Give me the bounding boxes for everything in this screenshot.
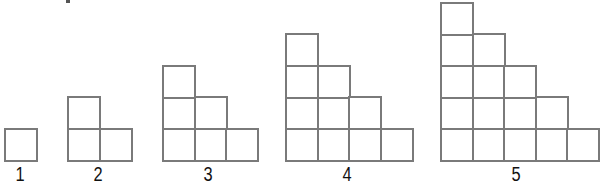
square-cell [380,128,414,162]
figure-label: 3 [203,163,212,185]
square-cell [440,2,474,36]
square-cell [4,128,38,162]
square-cell [194,96,228,130]
figure-label: 2 [93,163,102,185]
square-cell [67,96,101,130]
square-cell [317,65,351,99]
figure-label: 1 [15,163,24,185]
figure-label: 4 [342,163,351,185]
square-cell [285,33,319,67]
square-cell [472,96,506,130]
square-cell [440,33,474,67]
square-cell [99,128,133,162]
square-cell [348,128,382,162]
square-cell [472,33,506,67]
square-cell [472,65,506,99]
square-cell [348,96,382,130]
square-cell [440,96,474,130]
square-cell [503,96,537,130]
square-cell [317,96,351,130]
square-cell [225,128,259,162]
square-cell [535,96,569,130]
square-cell [535,128,569,162]
square-cell [162,96,196,130]
figure-label: 5 [511,163,520,185]
square-cell [285,65,319,99]
square-cell [67,128,101,162]
square-cell [472,128,506,162]
square-cell [503,65,537,99]
square-cell [285,128,319,162]
square-cell [285,96,319,130]
square-cell [194,128,228,162]
square-cell [162,128,196,162]
square-cell [317,128,351,162]
square-cell [440,128,474,162]
square-cell [440,65,474,99]
square-cell [162,65,196,99]
square-cell [566,128,600,162]
square-cell [503,128,537,162]
cropped-text-fragment [66,0,70,3]
